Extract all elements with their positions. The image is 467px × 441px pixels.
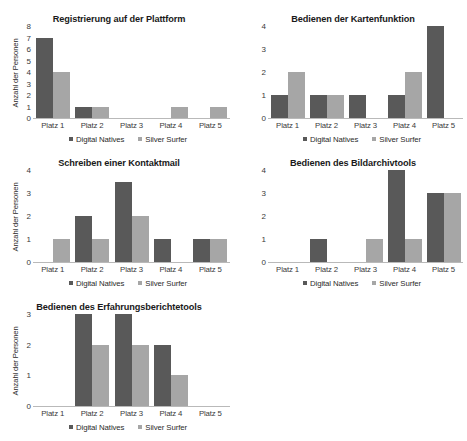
category-groups bbox=[33, 315, 230, 406]
legend-label: Digital Natives bbox=[76, 423, 124, 432]
legend-item[interactable]: Silver Surfer bbox=[372, 279, 421, 288]
x-axis-tick: Platz 5 bbox=[191, 407, 230, 420]
bar bbox=[405, 72, 422, 118]
bar-group bbox=[72, 27, 111, 118]
bar-group bbox=[385, 27, 424, 118]
x-axis-tick: Platz 1 bbox=[268, 119, 307, 132]
bar bbox=[171, 107, 188, 119]
y-axis-title-text: Anzahl der Personen bbox=[10, 326, 19, 395]
y-axis-tick: 1 bbox=[27, 372, 31, 380]
y-axis-tick: 4 bbox=[262, 23, 266, 31]
bar bbox=[388, 95, 405, 118]
legend: Digital NativesSilver Surfer bbox=[26, 420, 230, 434]
plot-area: Anzahl der Personen012345678 bbox=[8, 27, 230, 119]
legend-swatch-icon bbox=[69, 137, 73, 141]
chart-title: Schreiben einer Kontaktmail bbox=[8, 158, 230, 171]
x-axis-tick: Platz 2 bbox=[72, 407, 111, 420]
bar-group bbox=[346, 171, 385, 262]
legend-swatch-icon bbox=[372, 137, 376, 141]
legend-item[interactable]: Digital Natives bbox=[303, 279, 358, 288]
legend-item[interactable]: Silver Surfer bbox=[138, 135, 187, 144]
bar-group bbox=[112, 315, 151, 406]
legend: Digital NativesSilver Surfer bbox=[26, 276, 230, 290]
y-axis-tick: 1 bbox=[27, 104, 31, 112]
bar bbox=[310, 95, 327, 118]
bar bbox=[171, 375, 188, 406]
y-axis-tick: 3 bbox=[262, 190, 266, 198]
bar bbox=[405, 239, 422, 262]
bar-group bbox=[346, 27, 385, 118]
y-axis-tick: 2 bbox=[262, 213, 266, 221]
bar bbox=[92, 345, 109, 406]
chart-title: Registrierung auf der Plattform bbox=[8, 14, 230, 27]
y-axis-tick: 8 bbox=[27, 23, 31, 31]
bar bbox=[271, 95, 288, 118]
y-axis: 0123 bbox=[21, 315, 33, 407]
bar bbox=[154, 345, 171, 406]
chart-title: Bedienen des Bildarchivtools bbox=[243, 158, 463, 171]
legend-item[interactable]: Digital Natives bbox=[303, 135, 358, 144]
bar bbox=[53, 72, 70, 118]
x-axis-tick: Platz 1 bbox=[33, 407, 72, 420]
x-axis-tick: Platz 1 bbox=[268, 263, 307, 276]
bar bbox=[444, 193, 461, 262]
chart-panel: Bedienen des Bildarchivtools01234Platz 1… bbox=[243, 158, 463, 300]
x-axis: Platz 1Platz 2Platz 3Platz 4Platz 5 bbox=[268, 119, 463, 132]
legend-swatch-icon bbox=[303, 137, 307, 141]
bar-group bbox=[112, 171, 151, 262]
bar bbox=[349, 95, 366, 118]
bars-container bbox=[268, 171, 463, 263]
bar bbox=[132, 345, 149, 406]
x-axis-tick: Platz 2 bbox=[72, 263, 111, 276]
bar-group bbox=[191, 171, 230, 262]
bar-group bbox=[268, 27, 307, 118]
x-axis: Platz 1Platz 2Platz 3Platz 4Platz 5 bbox=[33, 263, 230, 276]
legend-label: Digital Natives bbox=[76, 279, 124, 288]
bar bbox=[115, 182, 132, 263]
bar bbox=[115, 314, 132, 406]
y-axis-tick: 3 bbox=[27, 190, 31, 198]
bar bbox=[75, 216, 92, 262]
legend-swatch-icon bbox=[138, 425, 142, 429]
legend-item[interactable]: Silver Surfer bbox=[138, 279, 187, 288]
legend-item[interactable]: Silver Surfer bbox=[138, 423, 187, 432]
y-axis-tick: 0 bbox=[27, 115, 31, 123]
legend-item[interactable]: Digital Natives bbox=[69, 423, 124, 432]
y-axis: 01234 bbox=[21, 171, 33, 263]
chart-grid: Registrierung auf der PlattformAnzahl de… bbox=[0, 0, 467, 441]
legend-item[interactable]: Digital Natives bbox=[69, 135, 124, 144]
legend: Digital NativesSilver Surfer bbox=[261, 276, 463, 290]
bar bbox=[366, 239, 383, 262]
x-axis-tick: Platz 2 bbox=[72, 119, 111, 132]
bar-group bbox=[307, 171, 346, 262]
y-axis-tick: 2 bbox=[262, 69, 266, 77]
y-axis-tick: 2 bbox=[27, 92, 31, 100]
y-axis: 012345678 bbox=[21, 27, 33, 119]
legend-item[interactable]: Silver Surfer bbox=[372, 135, 421, 144]
x-axis-tick: Platz 4 bbox=[151, 407, 190, 420]
legend-label: Silver Surfer bbox=[379, 135, 421, 144]
legend-item[interactable]: Digital Natives bbox=[69, 279, 124, 288]
legend-swatch-icon bbox=[138, 137, 142, 141]
legend: Digital NativesSilver Surfer bbox=[26, 132, 230, 146]
bar bbox=[92, 107, 109, 119]
category-groups bbox=[33, 27, 230, 118]
x-axis-tick: Platz 3 bbox=[346, 119, 385, 132]
bar bbox=[310, 239, 327, 262]
bar bbox=[193, 239, 210, 262]
legend-swatch-icon bbox=[69, 425, 73, 429]
y-axis-tick: 0 bbox=[27, 403, 31, 411]
bar bbox=[210, 239, 227, 262]
bar bbox=[388, 170, 405, 262]
x-axis-tick: Platz 4 bbox=[385, 263, 424, 276]
x-axis: Platz 1Platz 2Platz 3Platz 4Platz 5 bbox=[33, 119, 230, 132]
y-axis-tick: 3 bbox=[262, 46, 266, 54]
y-axis-tick: 1 bbox=[262, 92, 266, 100]
x-axis-tick: Platz 3 bbox=[112, 407, 151, 420]
legend-label: Digital Natives bbox=[310, 279, 358, 288]
y-axis-tick: 4 bbox=[262, 167, 266, 175]
bar bbox=[154, 239, 171, 262]
legend-swatch-icon bbox=[372, 281, 376, 285]
legend-label: Digital Natives bbox=[310, 135, 358, 144]
bar bbox=[36, 38, 53, 119]
